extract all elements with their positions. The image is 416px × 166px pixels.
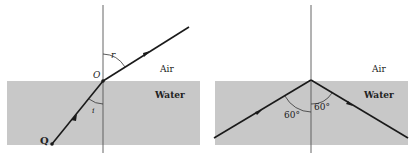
label-angle-right: 60° bbox=[314, 102, 330, 112]
label-water: Water bbox=[154, 90, 185, 100]
label-angle-left: 60° bbox=[284, 110, 300, 120]
label-air: Air bbox=[371, 64, 386, 74]
label-air: Air bbox=[159, 64, 174, 74]
label-i: i bbox=[92, 106, 95, 115]
refraction-diagram: r i O Q Air Water 60° 60° Air Water bbox=[0, 0, 416, 166]
left-panel-refraction: r i O Q Air Water bbox=[7, 5, 200, 153]
point-q-dot bbox=[50, 142, 54, 146]
label-q: Q bbox=[40, 135, 49, 146]
label-r: r bbox=[111, 50, 116, 60]
right-panel-total-internal-reflection: 60° 60° Air Water bbox=[214, 5, 408, 153]
label-o: O bbox=[93, 70, 101, 80]
point-o-dot bbox=[101, 79, 105, 83]
arrow-icon bbox=[143, 51, 150, 57]
label-water: Water bbox=[363, 90, 394, 100]
